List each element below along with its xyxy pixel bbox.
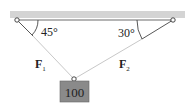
rope-left-dark (17, 20, 33, 36)
angle-arc-right (137, 20, 142, 39)
ceiling-bar (10, 11, 185, 18)
angle-right-label: 30° (118, 26, 135, 40)
hook-icon (72, 77, 76, 81)
rope-right (74, 39, 142, 79)
force-f1-label: F1 (35, 57, 46, 73)
weight-value: 100 (65, 85, 85, 100)
angle-arc-left (32, 20, 38, 35)
rope-right-dark (142, 20, 173, 39)
diagram-canvas: 45° 30° F1 F2 100 (0, 0, 191, 107)
angle-left-label: 45° (41, 25, 58, 39)
anchor-left-icon (15, 18, 19, 22)
anchor-right-icon (171, 18, 175, 22)
force-f2-label: F2 (119, 57, 130, 73)
